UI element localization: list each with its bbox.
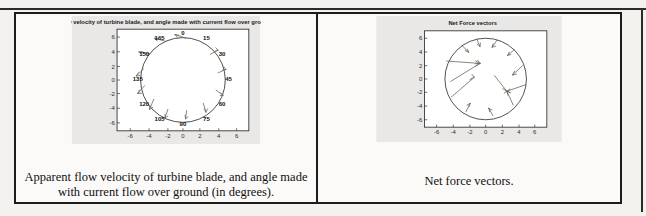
angle-label-60: 60 bbox=[219, 101, 226, 107]
right-figure-area: Net Force vectors 6 4 2 bbox=[318, 14, 620, 173]
right-panel-caption: Net force vectors. bbox=[318, 173, 620, 202]
angle-label-45: 45 bbox=[225, 76, 232, 82]
left-chart-title: Apparent flow velocity of turbine blade,… bbox=[71, 19, 261, 25]
left-ytick-2: -2 bbox=[109, 91, 115, 97]
figure-panel-right: Net Force vectors 6 4 2 bbox=[318, 14, 620, 202]
left-figure-area: Apparent flow velocity of turbine blade,… bbox=[16, 14, 316, 169]
right-plot-svg: Net Force vectors 6 4 2 bbox=[376, 16, 562, 142]
angle-label-90: 90 bbox=[180, 121, 187, 127]
left-xtick-2: -2 bbox=[165, 133, 171, 139]
left-xtick-0: -6 bbox=[128, 133, 134, 139]
left-ytick-0: -6 bbox=[109, 120, 115, 126]
right-ytick-0: -6 bbox=[417, 117, 423, 123]
left-plot-svg: Apparent flow velocity of turbine blade,… bbox=[71, 16, 261, 144]
right-xtick-1: -4 bbox=[451, 129, 457, 135]
angle-label-135: 135 bbox=[133, 76, 144, 82]
figure-panel-left: Apparent flow velocity of turbine blade,… bbox=[16, 14, 318, 202]
right-ytick-1: -4 bbox=[417, 103, 423, 109]
angle-label-120: 120 bbox=[139, 101, 150, 107]
right-chart-title: Net Force vectors bbox=[448, 20, 496, 26]
left-ytick-1: -4 bbox=[109, 105, 115, 111]
angle-label-75: 75 bbox=[203, 116, 210, 122]
right-axes-frame bbox=[425, 31, 547, 127]
right-ytick-2: -2 bbox=[417, 89, 422, 95]
apparent-flow-velocity-plot: Apparent flow velocity of turbine blade,… bbox=[71, 16, 261, 144]
angle-label-150: 150 bbox=[139, 51, 150, 57]
page-rule-top bbox=[0, 8, 646, 10]
left-panel-caption: Apparent flow velocity of turbine blade,… bbox=[16, 169, 316, 202]
left-xtick-1: -4 bbox=[146, 133, 152, 139]
net-force-vectors-plot: Net Force vectors 6 4 2 bbox=[376, 16, 562, 142]
right-xtick-0: -6 bbox=[434, 129, 440, 135]
page-rule-right bbox=[641, 8, 643, 212]
figure-table: Apparent flow velocity of turbine blade,… bbox=[14, 12, 622, 204]
angle-label-30: 30 bbox=[219, 51, 226, 57]
right-ytick-4: 2 bbox=[419, 63, 422, 69]
angle-label-15: 15 bbox=[203, 35, 210, 41]
angle-label-165: 165 bbox=[155, 35, 166, 41]
angle-label-105: 105 bbox=[155, 116, 166, 122]
right-xtick-2: -2 bbox=[467, 129, 472, 135]
right-xtick-4: 2 bbox=[501, 129, 504, 135]
